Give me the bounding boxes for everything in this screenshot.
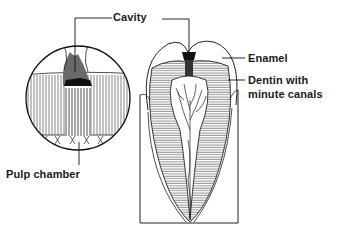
diagram-artwork	[0, 0, 338, 231]
enamel-label: Enamel	[248, 52, 288, 65]
pulp-chamber-label: Pulp chamber	[6, 168, 80, 181]
tooth-longitudinal-section	[140, 41, 238, 223]
dentin-label-line2: minute canals	[248, 88, 323, 101]
tooth-cavity-diagram: Cavity Enamel Dentin with minute canals …	[0, 0, 338, 231]
magnified-circle-view	[20, 40, 140, 150]
cavity-label: Cavity	[113, 11, 147, 24]
dentin-label-line1: Dentin with	[248, 74, 308, 87]
